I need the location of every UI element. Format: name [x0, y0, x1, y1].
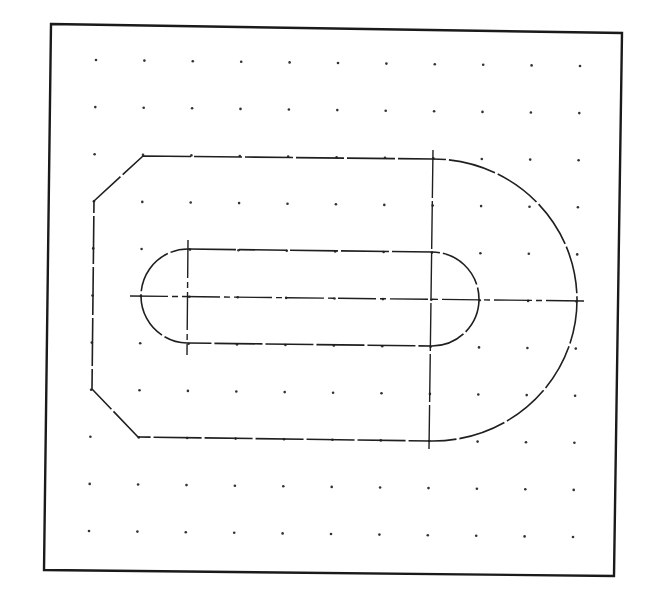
grid-dot [480, 205, 483, 208]
grid-dot [434, 63, 437, 66]
grid-dot [378, 533, 381, 536]
grid-dot [383, 204, 386, 207]
grid-dot [136, 530, 139, 533]
grid-dot [525, 394, 528, 397]
grid-dot [578, 112, 581, 115]
grid-dot [234, 484, 237, 487]
grid-dot [530, 64, 533, 67]
grid-dot [288, 108, 291, 111]
grid-dot [524, 488, 527, 491]
grid-dot [476, 487, 479, 490]
grid-dot [385, 62, 388, 65]
grid-dot [482, 64, 485, 67]
grid-dot [139, 342, 142, 345]
grid-dot [384, 109, 387, 112]
grid-dot [335, 203, 338, 206]
grid-dot [282, 485, 285, 488]
grid-dot [89, 436, 92, 439]
grid-dot [138, 389, 141, 392]
grid-dot [191, 107, 194, 110]
grid-dot [88, 530, 91, 533]
grid-dot [573, 442, 576, 445]
grid-dot [141, 201, 144, 204]
grid-dot [572, 536, 575, 539]
grid-dot [140, 248, 143, 251]
grid-dot [529, 158, 532, 161]
grid-dot [479, 252, 482, 255]
grid-dot [577, 159, 580, 162]
grid-dot [523, 535, 526, 538]
grid-dot [239, 108, 242, 111]
grid-dot [525, 441, 528, 444]
grid-dot [93, 153, 96, 156]
grid-dot [380, 392, 383, 395]
grid-dot [574, 394, 577, 397]
grid-dot [286, 202, 289, 205]
grid-dot [330, 486, 333, 489]
grid-dot [481, 158, 484, 161]
grid-dot [572, 489, 575, 492]
grid-dot [88, 483, 91, 486]
grid-dot [235, 390, 238, 393]
grid-dot [330, 533, 333, 536]
grid-dot [192, 60, 195, 63]
grid-dot [528, 205, 531, 208]
grid-dot [337, 62, 340, 65]
grid-dot [233, 532, 236, 535]
grid-dot [530, 111, 533, 114]
grid-dot [433, 110, 436, 113]
paper-background [0, 0, 651, 596]
grid-dot [238, 202, 241, 205]
grid-dot [576, 253, 579, 256]
grid-dot [94, 106, 97, 109]
grid-dot [427, 487, 430, 490]
drawing-canvas [0, 0, 651, 596]
grid-dot [575, 347, 578, 350]
grid-dot [137, 483, 140, 486]
grid-dot [579, 65, 582, 68]
grid-dot [332, 391, 335, 394]
grid-dot [185, 484, 188, 487]
grid-dot [477, 393, 480, 396]
grid-dot [475, 535, 478, 538]
grid-dot [281, 532, 284, 535]
grid-dot [240, 61, 243, 64]
grid-dot [288, 61, 291, 64]
grid-dot [528, 253, 531, 256]
grid-dot [189, 201, 192, 204]
grid-dot [283, 391, 286, 394]
grid-dot [95, 59, 98, 62]
grid-dot [379, 486, 382, 489]
grid-dot [187, 390, 190, 393]
grid-dot [476, 440, 479, 443]
grid-dot [185, 531, 188, 534]
grid-dot [336, 109, 339, 112]
grid-dot [427, 534, 430, 537]
grid-dot [481, 111, 484, 114]
centerline-left-slot-center-vertical [187, 240, 188, 355]
grid-dot [142, 106, 145, 109]
grid-dot [478, 346, 481, 349]
grid-dot [143, 59, 146, 62]
grid-dot [526, 347, 529, 350]
grid-dot [577, 206, 580, 209]
